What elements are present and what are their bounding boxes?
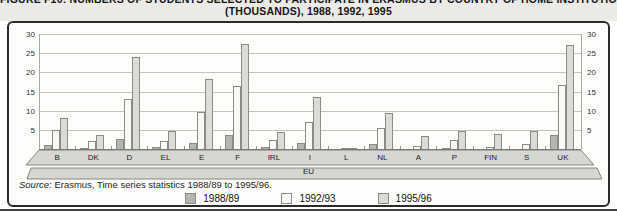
y-axis-label: 10 [17,107,35,116]
source-text: Erasmus, Time series statistics 1988/89 … [54,179,272,190]
group-tick [147,146,148,149]
x-axis-label: I [292,153,328,163]
bar-l-1992-93 [341,148,349,149]
y-axis-label: 30 [17,30,35,39]
bar-irl-1995-96 [277,132,285,149]
x-axis-label: B [39,153,75,163]
bar-el-1988-89 [152,147,160,149]
bar-chart: 5510101515202025253030BDKDELEFIRLILNLAPF… [9,23,608,181]
bar-irl-1988-89 [261,147,269,149]
group-tick [436,146,437,149]
gridline [39,53,581,54]
x-axis-label: S [509,153,545,163]
gridline [39,72,581,73]
legend-item: 1992/93 [281,193,335,204]
y-axis-label: 15 [17,88,35,97]
legend-swatch [378,193,389,204]
y-axis-label: 20 [587,68,605,77]
bar-f-1992-93 [233,86,241,149]
group-tick [292,146,293,149]
bar-e-1995-96 [205,79,213,149]
gridline [39,92,581,93]
group-tick [111,146,112,149]
bar-uk-1992-93 [558,85,566,149]
legend-swatch [281,193,292,204]
bar-uk-1995-96 [566,45,574,149]
y-axis-line [39,34,40,149]
group-tick [400,146,401,149]
y-axis-label: 5 [17,126,35,135]
legend-label: 1988/89 [203,193,239,204]
bar-nl-1995-96 [385,113,393,149]
legend-label: 1995/96 [396,193,432,204]
bar-i-1995-96 [313,97,321,149]
x-axis-label: UK [545,153,581,163]
x-axis-line [39,149,581,150]
bar-el-1992-93 [160,141,168,149]
x-axis-label: L [328,153,364,163]
y-axis-label: 25 [17,49,35,58]
source-prefix: Source: [19,179,52,190]
y-axis-label: 5 [587,126,605,135]
bar-a-1992-93 [413,146,421,149]
bar-i-1992-93 [305,122,313,149]
legend-item: 1995/96 [378,193,432,204]
x-axis-label: NL [364,153,400,163]
bar-p-1988-89 [442,148,450,149]
y-axis-label: 10 [587,107,605,116]
group-tick [256,146,257,149]
figure-box: 5510101515202025253030BDKDELEFIRLILNLAPF… [7,21,610,207]
gridline [39,111,581,112]
bar-dk-1992-93 [88,141,96,149]
group-tick [364,146,365,149]
bar-d-1995-96 [132,57,140,149]
group-tick [184,146,185,149]
bar-dk-1988-89 [80,148,88,149]
group-tick [220,146,221,149]
legend-label: 1992/93 [299,193,335,204]
bar-l-1995-96 [349,148,357,149]
bar-nl-1988-89 [369,144,377,149]
bar-s-1995-96 [530,131,538,149]
title-band: FIGURE F10: NUMBERS OF STUDENTS SELECTED… [0,0,617,21]
bar-dk-1995-96 [96,135,104,149]
group-tick [473,146,474,149]
legend-swatch [185,193,196,204]
bar-d-1992-93 [124,99,132,149]
page-bottom-rule [0,209,617,211]
group-tick [75,146,76,149]
bar-b-1988-89 [44,145,52,149]
plot-right-border [581,34,582,149]
group-tick [328,146,329,149]
figure-title-line2: (THOUSANDS), 1988, 1992, 1995 [0,5,617,17]
bar-fin-1995-96 [494,134,502,149]
bar-d-1988-89 [116,139,124,149]
eu-axis-label: EU [9,167,608,177]
bar-f-1988-89 [225,135,233,149]
group-tick [545,146,546,149]
x-axis-label: E [184,153,220,163]
bar-e-1988-89 [189,143,197,149]
bar-nl-1992-93 [377,128,385,149]
bar-fin-1992-93 [486,147,494,149]
bar-uk-1988-89 [550,135,558,149]
bar-p-1995-96 [458,131,466,149]
bar-el-1995-96 [168,131,176,149]
x-axis-label: D [111,153,147,163]
bar-a-1995-96 [421,136,429,149]
y-axis-label: 20 [17,68,35,77]
bar-b-1992-93 [52,130,60,149]
legend-item: 1988/89 [185,193,239,204]
group-tick [509,146,510,149]
x-axis-label: DK [75,153,111,163]
bar-f-1995-96 [241,44,249,149]
y-axis-label: 25 [587,49,605,58]
bar-b-1995-96 [60,118,68,149]
y-axis-label: 15 [587,88,605,97]
x-axis-label: IRL [256,153,292,163]
gridline [39,34,581,35]
bar-p-1992-93 [450,140,458,149]
x-axis-label: P [436,153,472,163]
y-axis-label: 30 [587,30,605,39]
x-axis-label: F [220,153,256,163]
